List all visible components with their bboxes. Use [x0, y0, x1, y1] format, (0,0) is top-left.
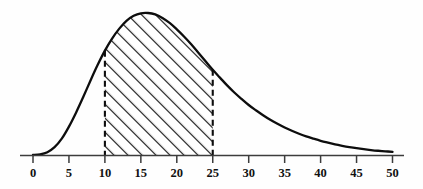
x-axis-tick-label: 35 — [278, 166, 291, 180]
chart-canvas: 05101520253035404550 — [0, 0, 423, 189]
x-axis-tick-label: 45 — [350, 166, 363, 180]
x-axis-tick-label: 30 — [242, 166, 255, 180]
x-axis-tick-label: 5 — [66, 166, 72, 180]
x-axis-tick-labels: 05101520253035404550 — [30, 166, 399, 180]
x-axis-tick-label: 0 — [30, 166, 36, 180]
x-axis-tick-label: 50 — [386, 166, 399, 180]
shaded-region — [105, 13, 213, 155]
x-axis-tick-label: 15 — [135, 166, 148, 180]
x-axis-ticks — [33, 156, 393, 164]
density-curve-plot: 05101520253035404550 — [0, 0, 423, 189]
x-axis-tick-label: 10 — [99, 166, 112, 180]
x-axis-tick-label: 25 — [207, 166, 220, 180]
x-axis-tick-label: 40 — [314, 166, 327, 180]
x-axis-tick-label: 20 — [171, 166, 184, 180]
